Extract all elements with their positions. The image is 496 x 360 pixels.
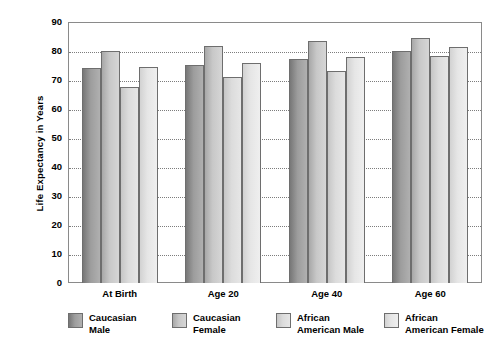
legend-swatch-icon <box>68 313 83 328</box>
y-tick-label: 70 <box>34 75 62 85</box>
legend-item[interactable]: Caucasian Male <box>68 312 137 336</box>
x-axis-label: At Birth <box>70 288 170 299</box>
bar <box>392 51 411 283</box>
legend-swatch-icon <box>172 313 187 328</box>
bar-series-layer <box>68 22 482 283</box>
legend-item[interactable]: African American Male <box>276 312 364 336</box>
y-tick-label: 90 <box>34 17 62 27</box>
y-tick-label: 20 <box>34 220 62 230</box>
legend-item[interactable]: African American Female <box>384 312 484 336</box>
bar <box>242 63 261 283</box>
legend-label: Caucasian Female <box>193 312 241 336</box>
y-tick-label: 0 <box>34 278 62 288</box>
bar <box>346 57 365 283</box>
bar <box>308 41 327 283</box>
x-axis-label: Age 40 <box>277 288 377 299</box>
legend-swatch-icon <box>384 313 399 328</box>
legend-label: Caucasian Male <box>89 312 137 336</box>
bar <box>289 59 308 283</box>
bar-chart: Life Expectancy in Years 908070605040302… <box>0 0 496 360</box>
y-tick-label: 80 <box>34 46 62 56</box>
legend-swatch-icon <box>276 313 291 328</box>
bar <box>82 68 101 283</box>
bar <box>411 38 430 283</box>
y-tick-label: 10 <box>34 249 62 259</box>
x-axis-label: Age 60 <box>380 288 480 299</box>
legend-item[interactable]: Caucasian Female <box>172 312 241 336</box>
bar <box>120 87 139 283</box>
bar <box>223 77 242 283</box>
legend-label: African American Female <box>405 312 484 336</box>
bar <box>185 65 204 283</box>
bar <box>327 71 346 283</box>
y-axis-tick-labels: 9080706050403020100 <box>30 0 62 360</box>
chart-legend: Caucasian MaleCaucasian FemaleAfrican Am… <box>68 312 492 352</box>
y-tick-label: 60 <box>34 104 62 114</box>
y-tick-label: 50 <box>34 133 62 143</box>
bar <box>101 51 120 283</box>
y-tick-label: 40 <box>34 162 62 172</box>
legend-label: African American Male <box>297 312 364 336</box>
x-axis-category-labels: At BirthAge 20Age 40Age 60 <box>68 288 482 304</box>
bar <box>204 46 223 284</box>
y-tick-label: 30 <box>34 191 62 201</box>
bar <box>449 47 468 283</box>
bar <box>430 56 449 283</box>
x-axis-label: Age 20 <box>173 288 273 299</box>
bar <box>139 67 158 283</box>
